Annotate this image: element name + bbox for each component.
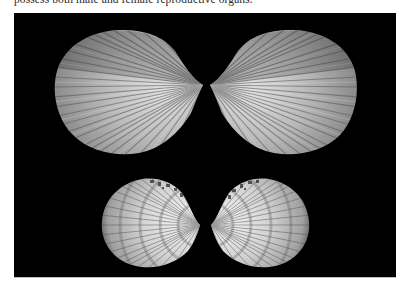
- shell-top-left-graphic: [53, 27, 205, 156]
- bottom-left-shell-valve: [100, 175, 201, 268]
- shell-bottom-right-graphic: [210, 175, 311, 268]
- caption-text: possess both male and female reproductiv…: [14, 0, 253, 6]
- shell-bottom-left-graphic: [100, 175, 201, 268]
- top-left-shell-valve: [53, 27, 205, 156]
- top-right-shell-valve: [210, 27, 358, 156]
- shell-top-right-graphic: [210, 27, 358, 156]
- bottom-right-shell-valve: [210, 175, 311, 268]
- shell-photo-figure: [14, 13, 396, 277]
